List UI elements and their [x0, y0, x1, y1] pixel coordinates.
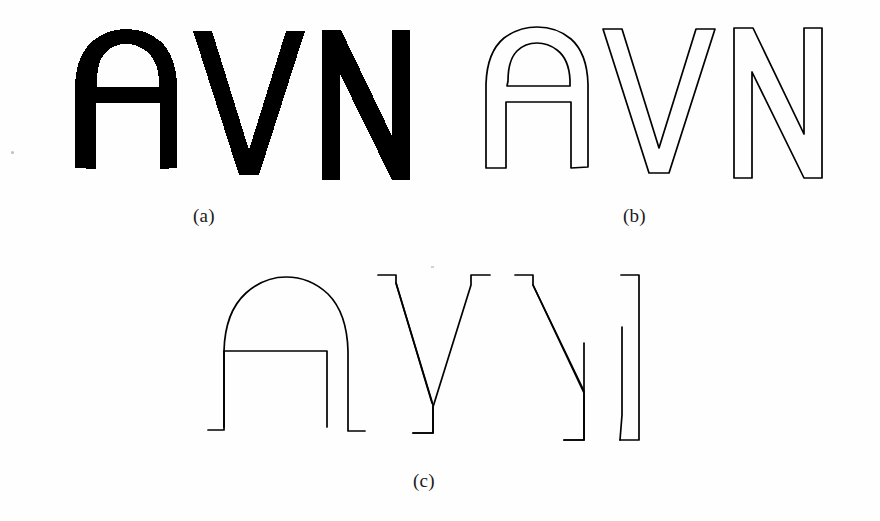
scan-noise-speck-secondary: [431, 266, 434, 268]
scan-noise-speck: [11, 151, 14, 154]
panel-c-svg: [180, 255, 700, 460]
panel-a-filled-letters: [0, 8, 440, 198]
panel-c-caption: (c): [413, 470, 435, 492]
figure-root: (a) (b): [0, 0, 880, 521]
glyph-v-open-contour-right: [413, 275, 490, 433]
glyph-a-open-crossbar: [224, 351, 327, 427]
glyph-n-open-contour-diagonal: [533, 285, 584, 391]
panel-b-closed-contours: [440, 8, 880, 203]
glyph-n-filled: [322, 30, 410, 180]
glyph-n-open-contour-tail: [620, 327, 622, 440]
glyph-v-filled: [193, 31, 305, 175]
glyph-n-open-contour-left: [515, 275, 584, 440]
glyph-n-outline: [734, 28, 822, 178]
glyph-a-filled: [75, 29, 177, 169]
panel-c-open-contours: [180, 255, 700, 460]
panel-a-caption: (a): [193, 205, 215, 227]
glyph-v-open-inner: [396, 283, 432, 403]
panel-a-svg: [0, 8, 440, 198]
glyph-a-outline-inner: [507, 43, 570, 86]
glyph-v-outline: [603, 29, 715, 173]
panel-b-caption: (b): [623, 205, 646, 227]
glyph-v-open-contour-left: [378, 275, 433, 433]
glyph-a-outline-outer: [486, 27, 588, 168]
glyph-a-open-contour: [208, 277, 365, 431]
panel-b-svg: [440, 8, 880, 203]
